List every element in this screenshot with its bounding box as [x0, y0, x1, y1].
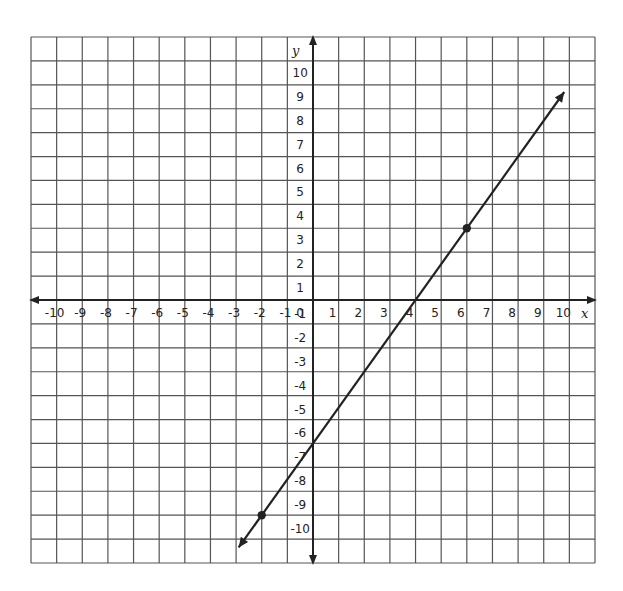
x-tick-label: -6: [151, 306, 163, 320]
x-tick-label: 9: [534, 306, 542, 320]
x-tick-label: -4: [202, 306, 214, 320]
y-tick-label: -3: [294, 355, 306, 369]
x-tick-label: -1: [279, 306, 291, 320]
y-tick-label: 4: [296, 209, 304, 223]
axes: [29, 35, 597, 565]
y-axis-label: y: [291, 43, 300, 58]
y-tick-label: 7: [296, 138, 304, 152]
y-tick-label: -8: [294, 474, 306, 488]
x-tick-label: 7: [483, 306, 491, 320]
y-tick-label: 9: [296, 90, 304, 104]
x-tick-label: -5: [177, 306, 189, 320]
y-tick-label: 1: [296, 281, 304, 295]
x-tick-label: -2: [254, 306, 266, 320]
y-tick-label: -4: [294, 379, 306, 393]
x-tick-label: -9: [74, 306, 86, 320]
x-tick-label: 10: [556, 306, 571, 320]
x-tick-label: 6: [457, 306, 465, 320]
y-tick-label: 10: [293, 66, 308, 80]
x-tick-label: -3: [228, 306, 240, 320]
x-tick-label: 8: [508, 306, 516, 320]
x-tick-label: -7: [126, 306, 138, 320]
line-end-arrow-icon: [555, 92, 564, 103]
y-tick-label: 8: [296, 114, 304, 128]
x-tick-label: -10: [45, 306, 65, 320]
y-tick-label: 3: [296, 233, 304, 247]
data-point: [463, 224, 471, 232]
coordinate-plane: -10-9-8-7-6-5-4-3-2-10123456789101098765…: [0, 0, 623, 591]
y-tick-label: 2: [296, 257, 304, 271]
y-tick-label: -1: [294, 307, 306, 321]
line-start-arrow-icon: [239, 537, 248, 548]
x-tick-label: 3: [380, 306, 388, 320]
y-tick-label: 5: [296, 185, 304, 199]
y-tick-label: -6: [294, 426, 306, 440]
y-tick-label: -10: [290, 522, 310, 536]
data-point: [258, 511, 266, 519]
x-tick-label: 2: [354, 306, 362, 320]
x-tick-label: -8: [100, 306, 112, 320]
y-tick-label: 6: [296, 162, 304, 176]
y-tick-label: -2: [294, 331, 306, 345]
x-tick-label: 1: [329, 306, 337, 320]
y-tick-label: -9: [294, 498, 306, 512]
y-tick-label: -5: [294, 403, 306, 417]
x-tick-label: 5: [431, 306, 439, 320]
x-axis-label: x: [581, 306, 589, 321]
